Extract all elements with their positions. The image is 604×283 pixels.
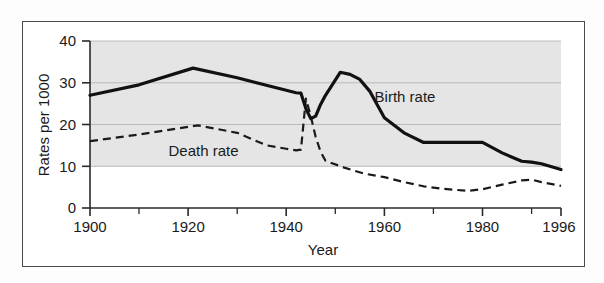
y-axis-title: Rates per 1000 bbox=[35, 74, 52, 177]
y-tick-label-10: 10 bbox=[59, 158, 76, 175]
x-tick-label-1920: 1920 bbox=[171, 218, 204, 235]
x-axis-ticks-minor bbox=[139, 208, 532, 214]
x-tick-label-1940: 1940 bbox=[270, 218, 303, 235]
x-tick-label-1996: 1996 bbox=[542, 218, 575, 235]
cropped-caption-strip bbox=[60, 272, 380, 283]
y-axis-ticks bbox=[82, 41, 90, 208]
birth-death-rate-line-chart: 40 30 20 10 0 1900 bbox=[23, 22, 583, 265]
x-axis-title: Year bbox=[308, 241, 338, 258]
death-rate-label: Death rate bbox=[169, 142, 239, 159]
figure-container: 40 30 20 10 0 1900 bbox=[0, 0, 604, 283]
x-tick-label-1980: 1980 bbox=[466, 218, 499, 235]
y-tick-label-40: 40 bbox=[59, 32, 76, 49]
x-axis-ticks-major bbox=[90, 208, 561, 216]
birth-rate-label: Birth rate bbox=[375, 88, 436, 105]
y-tick-label-0: 0 bbox=[68, 199, 76, 216]
y-tick-label-30: 30 bbox=[59, 74, 76, 91]
x-tick-label-1960: 1960 bbox=[368, 218, 401, 235]
x-tick-label-1900: 1900 bbox=[73, 218, 106, 235]
chart-frame: 40 30 20 10 0 1900 bbox=[22, 21, 585, 267]
y-tick-label-20: 20 bbox=[59, 116, 76, 133]
